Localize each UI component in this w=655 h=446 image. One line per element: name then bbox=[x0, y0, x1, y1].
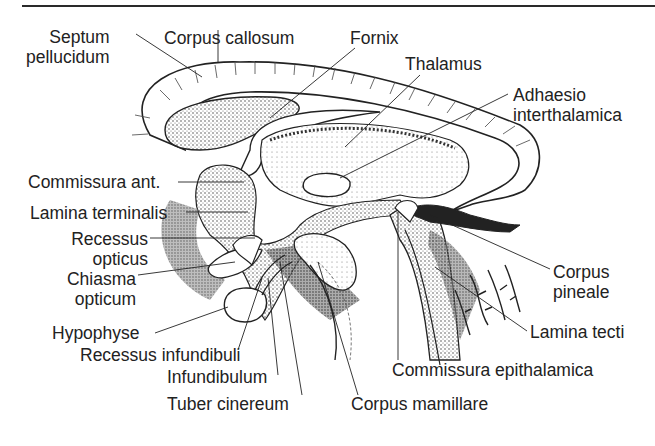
label-commissura-ant: Commissura ant. bbox=[28, 172, 160, 192]
label-corpus-mamillare: Corpus mamillare bbox=[351, 394, 488, 414]
label-adhaesio-interthalamica: Adhaesio interthalamica bbox=[513, 85, 622, 125]
label-line-1: Chiasma bbox=[56, 269, 136, 289]
label-tuber-cinereum: Tuber cinereum bbox=[167, 394, 289, 414]
label-line-1: Corpus bbox=[553, 262, 609, 282]
label-line-1: Septum bbox=[26, 27, 110, 47]
thalamus-shape bbox=[261, 124, 469, 207]
label-lamina-tecti: Lamina tecti bbox=[530, 322, 624, 342]
label-corpus-callosum: Corpus callosum bbox=[164, 28, 294, 48]
label-hypophyse: Hypophyse bbox=[52, 323, 140, 343]
label-line-2: opticus bbox=[60, 249, 148, 269]
label-thalamus: Thalamus bbox=[405, 54, 482, 74]
label-commissura-epithalamica: Commissura epithalamica bbox=[392, 360, 593, 380]
label-recessus-opticus: Recessus opticus bbox=[60, 229, 148, 269]
label-line-2: pellucidum bbox=[26, 47, 110, 67]
label-line-1: Adhaesio bbox=[513, 85, 622, 105]
label-lamina-terminalis: Lamina terminalis bbox=[30, 203, 167, 223]
label-recessus-infundibuli: Recessus infundibuli bbox=[80, 345, 241, 365]
label-line-2: opticum bbox=[56, 289, 136, 309]
label-line-2: interthalamica bbox=[513, 105, 622, 125]
label-fornix: Fornix bbox=[350, 28, 399, 48]
label-septum-pellucidum: Septum pellucidum bbox=[26, 27, 110, 67]
label-line-1: Recessus bbox=[60, 229, 148, 249]
hypophyse-shape bbox=[224, 288, 266, 322]
label-chiasma-opticum: Chiasma opticum bbox=[56, 269, 136, 309]
label-line-2: pineale bbox=[553, 282, 609, 302]
label-corpus-pineale: Corpus pineale bbox=[553, 262, 609, 302]
label-infundibulum: Infundibulum bbox=[167, 367, 267, 387]
